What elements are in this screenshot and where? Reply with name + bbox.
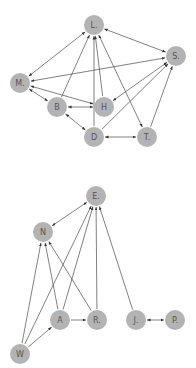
node-m: M. bbox=[10, 73, 30, 93]
edge-t-s bbox=[151, 66, 173, 126]
node-r: R. bbox=[87, 310, 107, 330]
edge-l-m bbox=[29, 32, 86, 76]
edge-h-l bbox=[95, 36, 102, 96]
node-label: B bbox=[54, 103, 60, 112]
node-a: A bbox=[50, 310, 70, 330]
node-l: L. bbox=[84, 15, 104, 35]
node-h: H bbox=[94, 97, 114, 117]
node-label: T. bbox=[143, 133, 150, 142]
node-label: R. bbox=[93, 316, 101, 325]
node-j: J. bbox=[126, 310, 146, 330]
graph-canvas: L.S.M.BHDT.E.NAR.J.P.W bbox=[0, 0, 196, 368]
edge-a-e bbox=[63, 207, 93, 310]
edge-l-s bbox=[104, 29, 165, 52]
edge-m-b bbox=[29, 89, 48, 101]
node-w: W bbox=[10, 344, 30, 364]
node-label: H bbox=[101, 103, 107, 112]
edge-b-l bbox=[62, 35, 90, 97]
node-b: B bbox=[47, 97, 67, 117]
edge-j-e bbox=[99, 206, 132, 309]
node-label: W bbox=[16, 350, 24, 359]
node-p: P. bbox=[165, 310, 185, 330]
node-label: J. bbox=[133, 316, 139, 325]
edge-n-e bbox=[52, 202, 87, 226]
node-label: A bbox=[57, 316, 63, 325]
node-n: N bbox=[33, 222, 53, 242]
node-t: T. bbox=[137, 127, 157, 147]
edge-w-n bbox=[22, 243, 41, 343]
node-label: S. bbox=[172, 52, 180, 61]
node-d: D bbox=[84, 127, 104, 147]
node-label: N bbox=[40, 228, 46, 237]
node-label: E. bbox=[92, 192, 100, 201]
edge-r-e bbox=[96, 207, 97, 309]
node-s: S. bbox=[166, 46, 186, 66]
node-e: E. bbox=[86, 186, 106, 206]
node-label: P. bbox=[172, 316, 178, 325]
edge-d-s bbox=[102, 64, 168, 130]
node-label: D bbox=[91, 133, 97, 142]
edge-r-n bbox=[49, 241, 92, 310]
node-label: M. bbox=[15, 79, 24, 88]
node-label: L. bbox=[91, 21, 98, 30]
edge-b-d bbox=[66, 114, 86, 130]
